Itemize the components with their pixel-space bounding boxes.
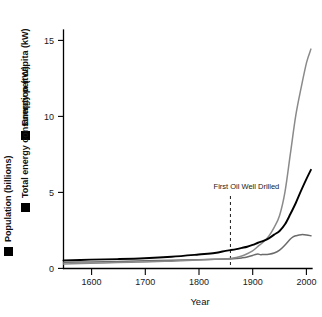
x-tick-label-1700: 1700 <box>135 277 155 287</box>
x-tick-label-1800: 1800 <box>189 277 209 287</box>
legend-label-population: Population (billions) <box>3 156 13 243</box>
x-tick-label-2000: 2000 <box>296 277 316 287</box>
y-tick-label-0: 0 <box>49 264 54 274</box>
legend-swatch-population <box>4 247 13 256</box>
chart-page: Energy per capita (kW) Total energy cons… <box>0 0 322 317</box>
legend-label-total-energy-consumption: Total energy consumption (tW) <box>20 66 30 198</box>
series-line-total-energy-consumption <box>64 49 311 264</box>
y-tick-label-5: 5 <box>49 188 54 198</box>
first-oil-well-annotation-label: First Oil Well Drilled <box>214 182 280 191</box>
energy-population-line-chart: Energy per capita (kW) Total energy cons… <box>0 0 322 317</box>
x-axis-title: Year <box>190 296 209 307</box>
x-tick-label-1600: 1600 <box>82 277 102 287</box>
legend-swatch-total-energy-consumption <box>21 203 30 212</box>
y-tick-label-15: 15 <box>44 36 54 46</box>
x-tick-label-1900: 1900 <box>243 277 263 287</box>
series-line-energy-per-capita <box>64 235 311 263</box>
y-tick-label-10: 10 <box>44 112 54 122</box>
